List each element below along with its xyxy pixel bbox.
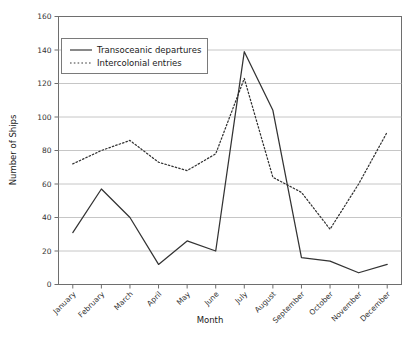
y-tick-label: 160: [37, 12, 52, 21]
chart-legend: Transoceanic departures Intercolonial en…: [62, 39, 208, 74]
y-tick-label: 140: [37, 46, 52, 55]
y-tick-label: 60: [42, 180, 52, 189]
legend-label-transoceanic-departures: Transoceanic departures: [96, 45, 202, 55]
y-tick-label: 80: [42, 146, 52, 155]
x-axis-title: Month: [197, 315, 224, 325]
y-tick-label: 120: [37, 79, 52, 88]
chart-container: 020406080100120140160 JanuaryFebruaryMar…: [0, 0, 415, 338]
y-tick-label: 0: [47, 280, 52, 289]
y-axis-title: Number of Ships: [8, 114, 18, 185]
line-chart: 020406080100120140160 JanuaryFebruaryMar…: [0, 0, 415, 338]
y-tick-label: 20: [42, 247, 52, 256]
y-tick-label: 40: [42, 213, 52, 222]
legend-box: [62, 39, 208, 74]
y-tick-label: 100: [37, 113, 52, 122]
legend-label-intercolonial-entries: Intercolonial entries: [97, 58, 182, 68]
